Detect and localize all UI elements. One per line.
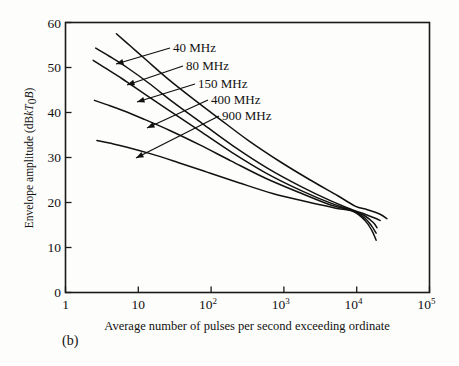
y-tick-label: 30 [48, 150, 62, 165]
leader-line [136, 116, 219, 158]
series-label-80mhz: 80 MHz [186, 58, 229, 73]
leader-line [127, 66, 183, 85]
x-tick-exponent: 2 [213, 296, 218, 306]
x-tick-label-1: 1 [62, 297, 69, 312]
curve-80-mhz [96, 48, 380, 220]
x-axis-title: Average number of pulses per second exce… [104, 319, 390, 333]
y-tick-label: 40 [48, 105, 62, 120]
y-axis-ticks [66, 23, 72, 293]
x-tick-exponent: 3 [285, 296, 290, 306]
series-label-400mhz: 400 MHz [211, 92, 261, 107]
figure-page: 0 10 20 30 40 50 60 1 10 102 103 [0, 0, 459, 366]
y-tick-label: 20 [48, 195, 62, 210]
chart-figure: 0 10 20 30 40 50 60 1 10 102 103 [0, 0, 459, 366]
y-tick-label: 60 [48, 16, 62, 31]
y-axis-title: Envelope amplitude (dBkT0B) [23, 88, 38, 229]
panel-caption: (b) [62, 333, 79, 349]
arrowhead-icon [136, 152, 144, 158]
data-curves [93, 34, 387, 241]
x-tick-mantissa: 10 [199, 297, 213, 312]
x-tick-label-1000: 103 [272, 296, 291, 312]
leader-line [147, 100, 208, 128]
x-tick-mantissa: 10 [417, 297, 431, 312]
annotation-40-mhz [116, 48, 170, 65]
svg-text:Envelope amplitude (dBkT0B): Envelope amplitude (dBkT0B) [23, 88, 38, 229]
annotation-900-mhz [136, 116, 219, 158]
x-tick-label-100: 102 [199, 296, 217, 312]
x-tick-label-10: 10 [132, 297, 146, 312]
x-tick-labels: 1 10 102 103 104 105 [62, 296, 436, 312]
curve-40-mhz [116, 34, 387, 219]
x-tick-exponent: 4 [358, 296, 363, 306]
y-tick-label: 10 [48, 240, 62, 255]
series-label-group: 40 MHz 80 MHz 150 MHz 400 MHz 900 MHz [173, 40, 272, 123]
annotation-400-mhz [147, 100, 208, 128]
series-label-40mhz: 40 MHz [173, 40, 216, 55]
y-tick-labels: 0 10 20 30 40 50 60 [48, 16, 62, 300]
x-axis-ticks [66, 287, 430, 293]
annotation-80-mhz [127, 66, 183, 85]
y-axis-title-suffix: ) [23, 88, 36, 92]
y-tick-label: 50 [48, 60, 62, 75]
y-tick-label: 0 [54, 285, 61, 300]
x-tick-mantissa: 10 [272, 297, 286, 312]
x-tick-label-10000: 104 [345, 296, 364, 312]
series-label-150mhz: 150 MHz [198, 76, 248, 91]
leader-line [116, 48, 170, 64]
x-tick-mantissa: 10 [345, 297, 359, 312]
x-tick-exponent: 5 [431, 296, 436, 306]
series-label-900mhz: 900 MHz [222, 108, 272, 123]
y-axis-title-B: B [23, 92, 35, 99]
y-axis-title-prefix: Envelope amplitude (dB [23, 116, 36, 229]
arrowhead-icon [137, 97, 145, 103]
x-tick-label-100000: 105 [417, 296, 436, 312]
